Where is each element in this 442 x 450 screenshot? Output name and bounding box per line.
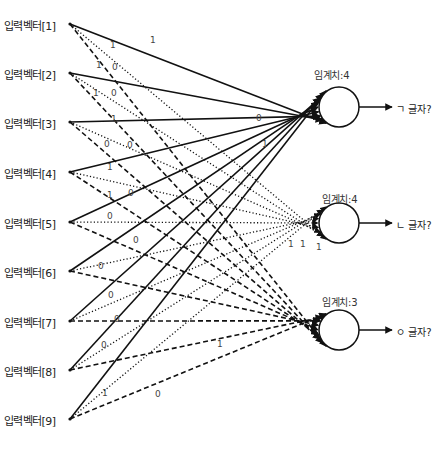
weight-label: 0 (128, 189, 134, 198)
weight-label: 0 (101, 341, 107, 350)
connection-input-9-neuron-3 (70, 314, 326, 419)
weight-label: 1 (262, 140, 268, 149)
weight-label: 1 (150, 36, 156, 45)
neural-network-diagram (0, 0, 442, 450)
weight-label: 0 (256, 114, 262, 123)
weight-label: 1 (110, 41, 116, 50)
input-label-4: 입력벡터[4] (4, 165, 55, 181)
weight-label: 0 (104, 140, 110, 149)
connection-input-6-neuron-1 (70, 102, 319, 271)
weight-label: 0 (107, 212, 113, 221)
connection-input-2-neuron-1 (70, 73, 323, 120)
connection-input-8-neuron-3 (70, 317, 323, 370)
weight-label: 1 (316, 243, 322, 252)
input-label-3: 입력벡터[3] (4, 115, 55, 131)
weight-label: 1 (93, 89, 99, 98)
output-label-2: ㄴ 글자? (396, 217, 432, 232)
neuron-2 (319, 203, 359, 243)
input-node-2 (68, 71, 71, 74)
weight-label: 1 (102, 389, 108, 398)
connection-input-3-neuron-3 (70, 122, 320, 339)
input-node-4 (68, 170, 71, 173)
weight-label: 0 (112, 63, 118, 72)
input-node-6 (68, 269, 71, 272)
weight-label: 0 (111, 89, 117, 98)
weight-label: 0 (98, 262, 104, 271)
connection-lines (70, 24, 326, 419)
threshold-label-3: 임계치:3 (322, 294, 357, 309)
input-node-9 (68, 417, 71, 420)
input-label-9: 입력벡터[9] (4, 412, 55, 428)
input-label-2: 입력벡터[2] (4, 66, 55, 82)
weight-label: 0 (127, 141, 133, 150)
connection-input-5-neuron-2 (70, 222, 318, 223)
output-label-3: ㅇ 글자? (396, 324, 432, 339)
connection-input-8-neuron-1 (70, 94, 323, 370)
output-label-1: ㄱ 글자? (396, 101, 432, 116)
input-node-7 (68, 319, 71, 322)
input-label-6: 입력벡터[6] (4, 264, 55, 280)
weight-label: 1 (111, 115, 117, 124)
weight-label: 1 (107, 191, 113, 200)
connection-input-1-neuron-1 (70, 24, 326, 123)
weight-label: 0 (114, 315, 120, 324)
weight-label: 1 (217, 340, 223, 349)
input-node-5 (68, 220, 71, 223)
weight-label: 1 (300, 240, 306, 249)
connection-input-6-neuron-2 (70, 218, 319, 271)
weight-label: 0 (155, 390, 161, 399)
neuron-1 (319, 87, 359, 127)
input-node-3 (68, 120, 71, 123)
input-node-1 (68, 22, 71, 25)
weight-label: 0 (133, 236, 139, 245)
input-label-7: 입력벡터[7] (4, 314, 55, 330)
connection-input-7-neuron-2 (70, 214, 320, 321)
weight-label: 0 (108, 291, 114, 300)
threshold-label-2: 임계치:4 (322, 191, 357, 206)
weight-label: 1 (96, 61, 102, 70)
threshold-label-1: 임계치:4 (314, 67, 349, 82)
weight-label: 1 (288, 240, 294, 249)
neuron-3 (319, 310, 359, 350)
input-label-5: 입력벡터[5] (4, 215, 55, 231)
input-label-8: 입력벡터[8] (4, 363, 55, 379)
input-label-1: 입력벡터[1] (4, 17, 55, 33)
weight-label: 1 (107, 163, 113, 172)
input-node-8 (68, 368, 71, 371)
connection-input-5-neuron-3 (70, 222, 318, 330)
